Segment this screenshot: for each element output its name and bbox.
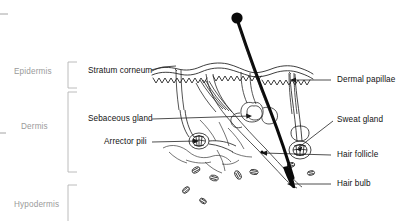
leader-sweat-gland bbox=[298, 121, 333, 148]
part-label-stratum-corneum: Stratum corneum bbox=[88, 67, 152, 75]
hair-shaft bbox=[238, 22, 295, 188]
bracket-dermis bbox=[68, 92, 77, 172]
layer-label-epidermis: Epidermis bbox=[14, 68, 52, 76]
leader-sebaceous-gland bbox=[152, 116, 250, 119]
layer-brackets bbox=[68, 62, 77, 221]
hair-tip bbox=[231, 12, 242, 23]
sweat-gland-coil bbox=[289, 74, 311, 159]
part-label-sweat-gland: Sweat gland bbox=[337, 116, 383, 124]
follicle-marker-dot bbox=[260, 150, 263, 153]
bracket-hypodermis bbox=[68, 185, 77, 221]
leader-arrector-pili bbox=[152, 141, 197, 142]
adipocytes bbox=[181, 162, 315, 205]
part-label-dermal-papillae: Dermal papillae bbox=[337, 76, 395, 84]
skin-anatomy-diagram: Epidermis Dermis Hypodermis Stratum corn… bbox=[0, 0, 417, 221]
layer-label-hypodermis: Hypodermis bbox=[14, 201, 59, 209]
part-label-sebaceous-gland: Sebaceous gland bbox=[88, 115, 153, 123]
part-label-hair-follicle: Hair follicle bbox=[337, 151, 378, 159]
bracket-epidermis bbox=[68, 62, 77, 88]
dermal-papillae-ridges bbox=[175, 69, 297, 114]
arrector-pili-muscle bbox=[180, 110, 236, 152]
edge-ticks bbox=[0, 14, 8, 133]
part-label-hair-bulb: Hair bulb bbox=[337, 180, 371, 188]
layer-label-dermis: Dermis bbox=[21, 123, 48, 131]
hair-bulb-dot bbox=[290, 182, 294, 186]
part-label-arrector-pili: Arrector pili bbox=[104, 138, 147, 146]
